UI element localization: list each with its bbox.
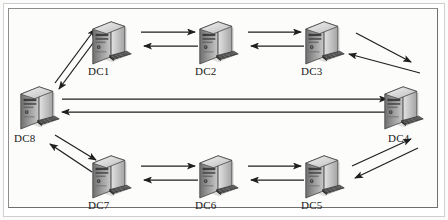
node-label-dc7: DC7 <box>88 200 109 211</box>
link-dc7-dc8-in <box>50 144 92 172</box>
node-label-dc4: DC4 <box>388 133 409 144</box>
node-label-dc2: DC2 <box>195 66 216 77</box>
node-label-dc8: DC8 <box>14 133 35 144</box>
server-tower-icon <box>18 81 62 133</box>
link-dc4-dc5-in <box>355 148 418 178</box>
server-tower-icon <box>90 16 134 68</box>
server-tower-icon <box>197 150 241 202</box>
node-label-dc6: DC6 <box>195 200 216 211</box>
node-label-dc5: DC5 <box>301 200 322 211</box>
server-tower-icon <box>197 16 241 68</box>
server-tower-icon <box>303 150 347 202</box>
node-label-dc3: DC3 <box>301 66 322 77</box>
node-label-dc1: DC1 <box>88 66 109 77</box>
figure-frame: DC1 DC2 DC3 DC4 DC5 DC6 DC7 DC8 <box>0 0 448 220</box>
server-tower-icon <box>90 150 134 202</box>
link-dc4-dc3-in <box>349 54 420 73</box>
server-tower-icon <box>382 81 426 133</box>
server-tower-icon <box>303 16 347 68</box>
